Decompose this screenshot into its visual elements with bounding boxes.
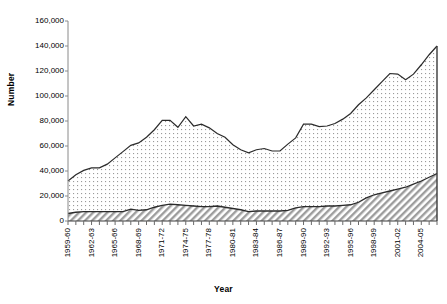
chart-container: Number Year 160,000140,000120,000100,000… bbox=[0, 0, 447, 304]
plot-area bbox=[0, 0, 447, 304]
upper-series-area bbox=[68, 46, 437, 214]
